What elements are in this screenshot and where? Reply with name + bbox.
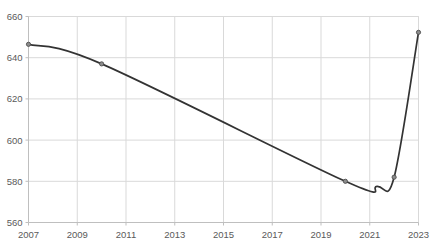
chart-background bbox=[0, 0, 432, 252]
x-axis-tick-label: 2019 bbox=[310, 229, 331, 240]
data-point-marker bbox=[416, 30, 420, 34]
x-axis-tick-label: 2009 bbox=[67, 229, 88, 240]
data-point-marker bbox=[26, 42, 30, 46]
x-axis-tick-label: 2021 bbox=[359, 229, 380, 240]
x-axis-tick-label: 2013 bbox=[164, 229, 185, 240]
y-axis-tick-label: 620 bbox=[7, 93, 23, 104]
x-axis-tick-label: 2007 bbox=[18, 229, 39, 240]
x-axis-tick-label: 2011 bbox=[116, 229, 136, 240]
y-axis-tick-label: 560 bbox=[7, 217, 23, 228]
x-axis-tick-label: 2017 bbox=[262, 229, 283, 240]
y-axis-tick-label: 640 bbox=[7, 52, 23, 63]
x-axis-tick-label: 2023 bbox=[408, 229, 429, 240]
chart-canvas: 560580600620640660 200720092011201320152… bbox=[0, 0, 432, 252]
data-point-marker bbox=[392, 175, 396, 179]
data-point-marker bbox=[100, 62, 104, 66]
y-axis-tick-label: 580 bbox=[7, 176, 23, 187]
x-axis-tick-label: 2015 bbox=[213, 229, 234, 240]
y-axis-tick-label: 600 bbox=[7, 135, 23, 146]
y-axis-tick-label: 660 bbox=[7, 11, 23, 22]
x-axis-tick-labels: 200720092011201320152017201920212023 bbox=[18, 229, 429, 240]
line-chart: 560580600620640660 200720092011201320152… bbox=[0, 0, 432, 252]
data-point-marker bbox=[343, 179, 347, 183]
